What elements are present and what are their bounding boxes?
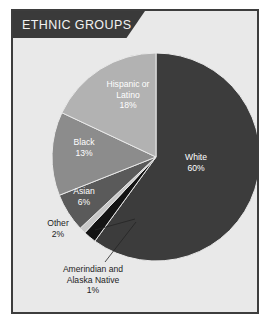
callout-value-amerindian: 1% — [13, 285, 173, 296]
callout-label-amerindian-line1: Amerindian and — [63, 264, 123, 274]
panel-title-banner: ETHNIC GROUPS — [13, 11, 145, 38]
callout-label-amerindian-and-alaska-native: Amerindian and Alaska Native 1% — [13, 264, 173, 296]
page-title: ETHNIC GROUPS — [13, 18, 131, 32]
callout-value-other: 2% — [25, 229, 91, 240]
pie-chart: Hispanic or Latino 18% Black 13% Asian 6… — [13, 38, 257, 312]
callout-label-other-text: Other — [47, 218, 69, 228]
callout-label-amerindian-line2: Alaska Native — [67, 275, 120, 285]
ethnic-groups-panel: ETHNIC GROUPS Hispanic or Latino 18% Bla… — [11, 9, 259, 314]
callout-label-other: Other 2% — [25, 218, 91, 239]
